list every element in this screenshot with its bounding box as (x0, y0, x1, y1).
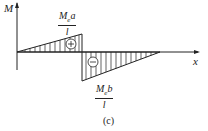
figure-caption: (c) (103, 115, 114, 126)
positive-peak-label: Mea l (58, 11, 76, 37)
negative-peak-numerator: Meb (95, 84, 113, 99)
x-axis-label: x (193, 56, 198, 67)
negative-moment-region (82, 52, 160, 81)
negative-peak-denominator: l (95, 99, 113, 110)
positive-peak-numerator: Mea (58, 11, 76, 26)
positive-peak-denominator: l (58, 26, 76, 37)
x-axis-arrow-icon (194, 50, 200, 54)
moment-diagram-canvas (0, 0, 208, 131)
negative-peak-label: Meb l (95, 84, 113, 110)
y-axis-arrow-icon (15, 2, 19, 8)
y-axis-label: M (4, 3, 13, 14)
